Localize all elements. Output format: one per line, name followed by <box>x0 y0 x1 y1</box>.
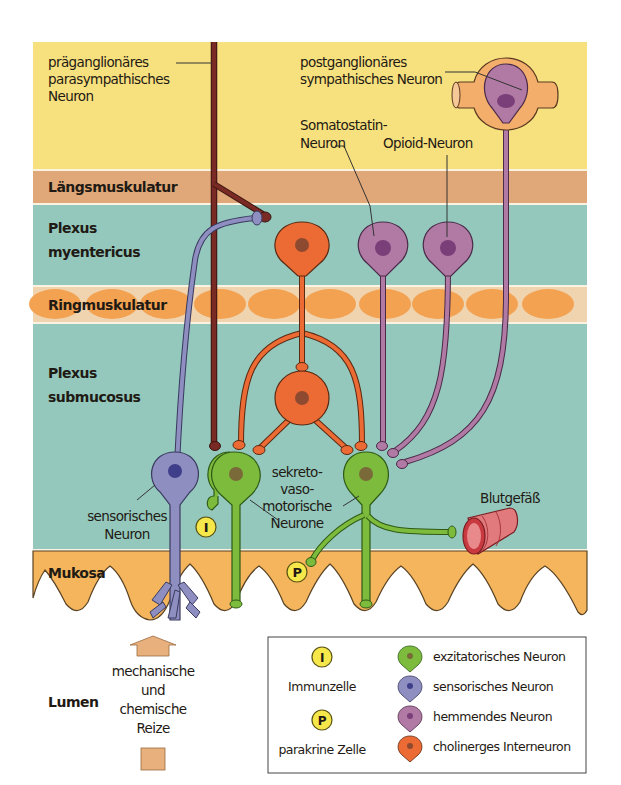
label-ringmuskulatur: Ringmuskulatur <box>48 297 167 313</box>
label-postganglionaer-2: sympathisches Neuron <box>300 71 442 87</box>
label-sekretomotorisch-3: motorische <box>262 498 332 514</box>
svg-text:sensorisches Neuron: sensorisches Neuron <box>433 679 553 694</box>
svg-text:P: P <box>292 565 301 580</box>
svg-text:cholinerges Interneuron: cholinerges Interneuron <box>433 739 571 754</box>
label-praeganglionaer-1: präganglionäres <box>48 54 149 70</box>
immunzelle-marker: I <box>196 517 216 537</box>
svg-text:exzitatorisches Neuron: exzitatorisches Neuron <box>433 649 566 664</box>
svg-text:I: I <box>204 520 208 535</box>
parakrin-marker: P <box>287 562 307 582</box>
svg-text:hemmendes Neuron: hemmendes Neuron <box>433 709 552 724</box>
enteric-nervous-system-diagram: I P präganglionäres parasympathisches Ne… <box>0 0 621 785</box>
label-blutgefaess: Blutgefäß <box>480 490 540 506</box>
svg-text:parakrine Zelle: parakrine Zelle <box>278 742 366 757</box>
label-reize-2: und <box>141 682 165 698</box>
label-sensorisch-1: sensorisches <box>87 508 167 524</box>
legend: I Immunzelle P parakrine Zelle exzitator… <box>268 637 586 773</box>
label-sekretomotorisch-1: sekreto- <box>272 464 323 480</box>
label-laengsmuskulatur: Längsmuskulatur <box>48 179 178 195</box>
label-reize-1: mechanische <box>112 663 195 679</box>
label-plexus-myentericus-1: Plexus <box>48 220 97 236</box>
svg-text:P: P <box>318 714 327 728</box>
stimulus-arrow: mechanische und chemische Reize <box>112 636 195 770</box>
label-somatostatin-2: Neuron <box>300 135 345 151</box>
label-lumen: Lumen <box>48 694 98 710</box>
label-sensorisch-2: Neuron <box>104 526 149 542</box>
label-somatostatin-1: Somatostatin- <box>300 117 388 133</box>
label-sekretomotorisch-4: Neurone <box>270 515 323 531</box>
svg-text:I: I <box>320 651 324 665</box>
svg-text:Immunzelle: Immunzelle <box>288 679 357 694</box>
label-plexus-myentericus-2: myentericus <box>48 244 140 260</box>
label-reize-3: chemische <box>119 701 186 717</box>
label-praeganglionaer-3: Neuron <box>48 88 93 104</box>
label-sekretomotorisch-2: vaso- <box>280 481 314 497</box>
label-reize-4: Reize <box>136 720 170 736</box>
label-praeganglionaer-2: parasympathisches <box>48 71 170 87</box>
label-mukosa: Mukosa <box>48 565 105 581</box>
label-opioid: Opioid-Neuron <box>383 135 473 151</box>
label-plexus-submucosus-1: Plexus <box>48 365 97 381</box>
label-plexus-submucosus-2: submucosus <box>48 389 141 405</box>
label-postganglionaer-1: postganglionäres <box>300 54 407 70</box>
